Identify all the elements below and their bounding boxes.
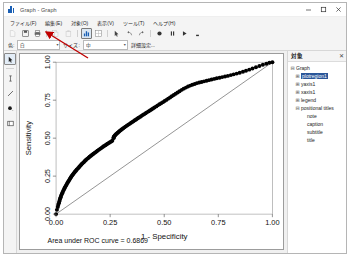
tree-item-subtitle[interactable]: subtitle	[290, 128, 346, 136]
new-icon[interactable]	[7, 28, 18, 39]
editor-body: 0.000.250.500.751.00 0.000.250.500.751.0…	[4, 51, 346, 253]
size-value: 中	[86, 42, 122, 48]
menu-item-file[interactable]: ファイル(F)	[9, 19, 37, 26]
chart-caption[interactable]: Area under ROC curve = 0.6869	[48, 237, 149, 244]
color-select[interactable]: 白 ▾	[17, 40, 60, 50]
collapse-icon[interactable]: ⊟	[295, 106, 300, 111]
print-icon[interactable]	[32, 28, 43, 39]
tree-item-plotregion1[interactable]: ⊞plotregion1	[290, 72, 346, 80]
graph-canvas-area[interactable]: 0.000.250.500.751.00 0.000.250.500.751.0…	[17, 51, 287, 253]
redo-icon[interactable]	[136, 28, 147, 39]
toolbar-separator	[77, 30, 78, 37]
menu-item-tools[interactable]: ツール(T)	[122, 19, 145, 26]
object-panel-title: 対象	[291, 52, 303, 60]
graph-editor-window: Graph - Graph ファイル(F) 編集(E) 対象(O) 表示(V) …	[3, 2, 347, 254]
copy-icon[interactable]	[50, 28, 61, 39]
more-settings-button[interactable]: 詳細設定...	[131, 41, 155, 48]
tree-item-note[interactable]: note	[290, 112, 346, 120]
toolbar-separator	[46, 30, 47, 37]
tool-separator	[6, 68, 14, 69]
tree-item-label: caption	[307, 121, 323, 127]
expand-icon[interactable]: ⊞	[295, 74, 300, 79]
tree-item-caption[interactable]: caption	[290, 120, 346, 128]
undo-icon[interactable]	[124, 28, 135, 39]
style-toolbar: 色: 白 ▾ サイズ: 中 ▾ 詳細設定...	[4, 39, 346, 51]
tree-item-xaxis1[interactable]: ⊞xaxis1	[290, 88, 346, 96]
record-icon[interactable]	[154, 28, 165, 39]
grid-icon[interactable]	[93, 28, 104, 39]
tree-item-label: subtitle	[307, 129, 323, 135]
save-icon[interactable]	[20, 28, 31, 39]
tree-item-label: note	[307, 113, 317, 119]
tree-item-label: xaxis1	[301, 89, 315, 95]
menu-bar: ファイル(F) 編集(E) 対象(O) 表示(V) ツール(T) ヘルプ(H)	[4, 17, 346, 27]
tree-item-label: title	[307, 137, 315, 143]
drawing-tools-strip	[4, 51, 17, 253]
tree-item-label: yaxis1	[301, 81, 315, 87]
color-value: 白	[20, 42, 54, 48]
object-browser-panel: 対象 ✕ ⊟Graph⊞plotregion1⊞yaxis1⊞xaxis1⊞le…	[287, 51, 346, 253]
expand-icon[interactable]: ⊞	[295, 90, 300, 95]
marker-dot-icon[interactable]	[4, 102, 16, 114]
tree-item-legend[interactable]: ⊞legend	[290, 96, 346, 104]
main-toolbar	[4, 27, 346, 39]
pause-icon[interactable]	[167, 28, 178, 39]
expand-icon[interactable]: ⊞	[295, 82, 300, 87]
window-title: Graph - Graph	[20, 7, 57, 13]
pointer-icon[interactable]	[111, 28, 122, 39]
tree-item-label: legend	[301, 97, 316, 103]
collapse-icon[interactable]: ⊟	[290, 66, 295, 71]
tree-item-label: positional titles	[301, 105, 334, 111]
select-pointer-icon[interactable]	[4, 53, 16, 65]
graph-canvas[interactable]: 0.000.250.500.751.00 0.000.250.500.751.0…	[19, 53, 284, 250]
rectangle-icon[interactable]	[4, 117, 16, 129]
object-tree[interactable]: ⊟Graph⊞plotregion1⊞yaxis1⊞xaxis1⊞legend⊟…	[288, 62, 346, 253]
stop-icon[interactable]	[192, 28, 203, 39]
tree-item-graph[interactable]: ⊟Graph	[290, 64, 346, 72]
object-panel-close-icon[interactable]: ✕	[339, 53, 344, 59]
close-button[interactable]	[331, 3, 346, 16]
size-label: サイズ:	[63, 41, 79, 48]
minimize-button[interactable]	[301, 3, 316, 16]
line-icon[interactable]	[4, 87, 16, 99]
maximize-button[interactable]	[316, 3, 331, 16]
app-bar-chart-icon	[8, 6, 16, 13]
graph-editor-icon[interactable]	[81, 28, 92, 39]
tree-item-positional-titles[interactable]: ⊟positional titles	[290, 104, 346, 112]
chevron-down-icon: ▾	[56, 42, 58, 47]
toolbar-separator	[107, 30, 108, 37]
menu-item-view[interactable]: 表示(V)	[96, 19, 115, 26]
size-select[interactable]: 中 ▾	[83, 40, 128, 50]
chevron-down-icon: ▾	[124, 42, 126, 47]
object-panel-header: 対象 ✕	[288, 51, 346, 62]
tree-item-yaxis1[interactable]: ⊞yaxis1	[290, 80, 346, 88]
menu-item-help[interactable]: ヘルプ(H)	[152, 19, 176, 26]
text-cursor-icon[interactable]	[4, 72, 16, 84]
tree-item-label: Graph	[296, 65, 310, 71]
menu-item-object[interactable]: 対象(O)	[70, 19, 89, 26]
tree-item-label: plotregion1	[301, 73, 328, 79]
tree-item-title[interactable]: title	[290, 136, 346, 144]
color-label: 色:	[8, 41, 14, 48]
menu-item-edit[interactable]: 編集(E)	[44, 19, 63, 26]
title-bar: Graph - Graph	[4, 3, 346, 17]
expand-icon[interactable]: ⊞	[295, 98, 300, 103]
paste-icon[interactable]	[63, 28, 74, 39]
window-controls	[301, 3, 346, 16]
toolbar-separator	[150, 30, 151, 37]
play-icon[interactable]	[179, 28, 190, 39]
